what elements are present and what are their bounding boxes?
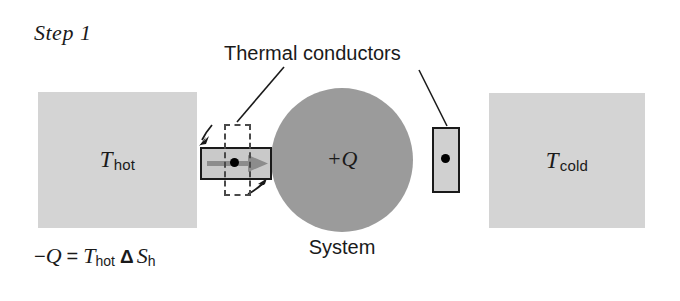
hot-reservoir-label: Thot <box>38 147 197 173</box>
equation-entropy-symbol: S <box>137 243 148 268</box>
step-title: Step 1 <box>34 20 91 46</box>
rotation-arrow-upper-left-icon <box>199 125 212 146</box>
entropy-equation: −Q=ThotΔSh <box>34 243 155 269</box>
hot-reservoir-block: Thot <box>38 92 197 228</box>
left-thermal-conductor-center-dot <box>230 158 239 167</box>
equation-entropy-subscript: h <box>148 253 156 269</box>
hot-temperature-symbol: T <box>100 147 113 172</box>
equation-temperature-subscript: hot <box>96 253 115 269</box>
cold-temperature-symbol: T <box>546 148 559 173</box>
equation-heat-symbol: Q <box>46 243 62 268</box>
equation-delta-symbol: Δ <box>120 246 134 267</box>
equation-temperature-symbol: T <box>83 243 95 268</box>
system-charge-label: +Q <box>271 146 413 172</box>
thermodynamics-step-diagram: Step 1 Thot Tcold +Q System <box>0 0 680 301</box>
thermal-conductors-label: Thermal conductors <box>224 42 401 65</box>
leader-line-right <box>419 70 447 126</box>
equation-minus-sign: − <box>34 245 46 267</box>
cold-temperature-subscript: cold <box>560 157 588 174</box>
right-thermal-conductor-center-dot <box>441 154 450 163</box>
leader-line-left <box>237 67 284 122</box>
equation-equals-sign: = <box>67 245 79 267</box>
hot-temperature-subscript: hot <box>114 156 135 173</box>
cold-reservoir-label: Tcold <box>489 148 645 174</box>
system-caption: System <box>271 236 413 259</box>
cold-reservoir-block: Tcold <box>489 93 645 228</box>
